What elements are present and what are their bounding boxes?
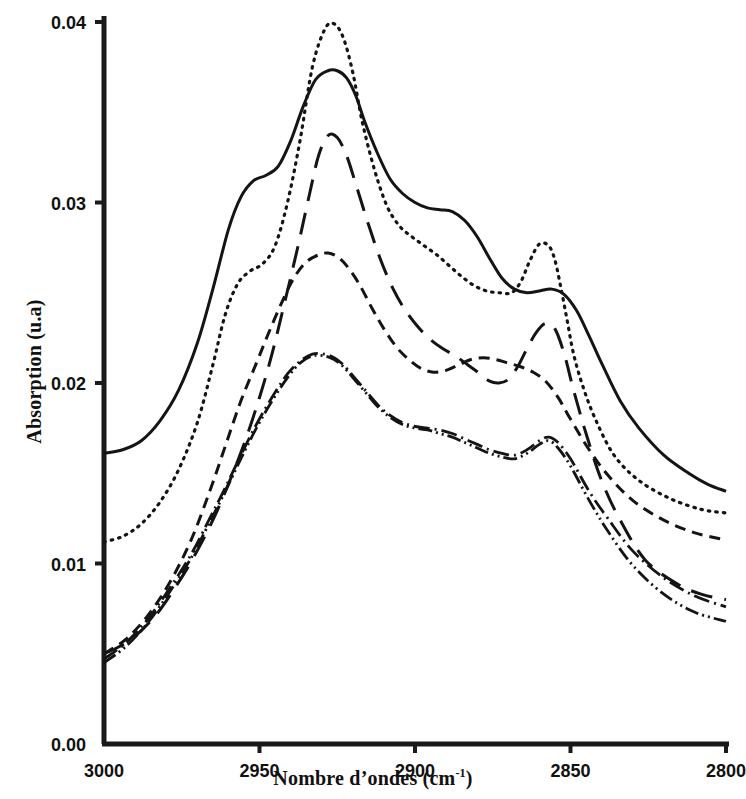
axes bbox=[102, 16, 729, 744]
x-axis-title-base: Nombre d’ondes (cm bbox=[273, 767, 455, 789]
curve-2-dotted bbox=[104, 23, 726, 542]
spectrum-curves bbox=[104, 23, 726, 663]
curve-4-long-dash bbox=[104, 134, 726, 654]
y-tick-label: 0.03 bbox=[51, 194, 86, 214]
y-tick-label: 0.04 bbox=[51, 13, 86, 33]
x-axis-title-superscript: -1 bbox=[455, 766, 465, 780]
curve-5-dash-dot bbox=[104, 353, 726, 659]
curve-3-short-dash bbox=[104, 253, 726, 654]
curve-1-solid bbox=[104, 70, 726, 492]
curve-6-dash-dot-dot bbox=[104, 355, 726, 663]
x-axis-title-close: ) bbox=[466, 767, 473, 789]
ftir-spectrum-figure: 0.000.010.020.030.0430002950290028502800… bbox=[0, 0, 746, 799]
tick-labels: 0.000.010.020.030.0430002950290028502800 bbox=[51, 13, 746, 781]
y-tick-label: 0.01 bbox=[51, 555, 86, 575]
tick-marks bbox=[95, 22, 726, 753]
y-tick-label: 0.02 bbox=[51, 374, 86, 394]
x-axis-title: Nombre d’ondes (cm-1) bbox=[0, 766, 746, 790]
y-tick-label: 0.00 bbox=[51, 735, 86, 755]
y-axis-title: Absorption (u.a) bbox=[23, 202, 46, 542]
spectrum-plot: 0.000.010.020.030.0430002950290028502800 bbox=[0, 0, 746, 799]
